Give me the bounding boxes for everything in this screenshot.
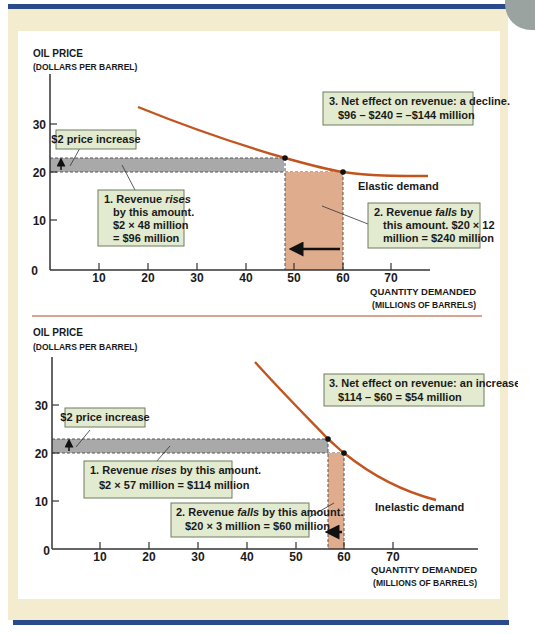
svg-text:$114 – $60 = $54 million: $114 – $60 = $54 million — [338, 391, 462, 403]
svg-text:$96 – $240 = –$144 million: $96 – $240 = –$144 million — [338, 109, 475, 121]
x-tick: 30 — [191, 550, 205, 564]
svg-text:$2 price increase: $2 price increase — [51, 133, 140, 145]
y-tick: 20 — [35, 447, 49, 461]
x-tick: 50 — [289, 550, 303, 564]
point-before — [325, 436, 331, 442]
svg-text:3. Net effect on revenue: an i: 3. Net effect on revenue: an increase. — [329, 377, 518, 389]
svg-text:1. Revenue rises by this amoun: 1. Revenue rises by this amount. — [90, 464, 261, 476]
x-tick: 60 — [337, 550, 351, 564]
x-tick: 30 — [190, 271, 204, 285]
y-axis-title: OIL PRICE — [33, 48, 83, 59]
point-after — [341, 450, 347, 456]
svg-text:$2 × 57 million = $114 million: $2 × 57 million = $114 million — [99, 479, 250, 491]
net-effect-box: 3. Net effect on revenue: a decline. $96… — [323, 92, 510, 125]
svg-text:3. Net effect on revenue: a de: 3. Net effect on revenue: a decline. — [329, 95, 510, 107]
y-axis-subtitle: (DOLLARS PER BARREL) — [33, 342, 138, 352]
y-tick: 0 — [31, 264, 38, 278]
y-axis-subtitle: (DOLLARS PER BARREL) — [33, 62, 138, 72]
revenue-fall-box: 2. Revenue falls by this amount. $20 × 1… — [368, 203, 495, 248]
x-axis-title: QUANTITY DEMANDED — [370, 286, 476, 297]
svg-text:this amount. $20 × 12: this amount. $20 × 12 — [383, 219, 495, 231]
point-before — [282, 155, 288, 161]
x-axis-title: QUANTITY DEMANDED — [371, 564, 477, 575]
revenue-rise-area — [52, 439, 328, 453]
y-tick: 10 — [35, 495, 49, 509]
svg-text:$20 × 3 million = $60 million: $20 × 3 million = $60 million — [185, 520, 330, 532]
curve-label: Elastic demand — [358, 180, 439, 192]
x-tick: 20 — [142, 550, 156, 564]
x-tick: 50 — [287, 271, 301, 285]
curve-label: Inelastic demand — [375, 501, 464, 513]
x-tick: 40 — [240, 550, 254, 564]
x-tick: 70 — [384, 271, 398, 285]
y-tick: 0 — [43, 544, 50, 558]
revenue-rise-area — [50, 158, 284, 172]
svg-text:$2 price increase: $2 price increase — [60, 411, 149, 423]
x-axis-subtitle: (MILLIONS OF BARRELS) — [372, 300, 476, 310]
inelastic-chart: OIL PRICE (DOLLARS PER BARREL) 0 10 20 3… — [33, 327, 518, 588]
svg-text:2. Revenue falls by: 2. Revenue falls by — [374, 206, 474, 218]
price-increase-box: $2 price increase — [51, 130, 140, 149]
y-tick: 30 — [35, 399, 49, 413]
revenue-rise-box: 1. Revenue rises by this amount. $2 × 57… — [84, 461, 261, 498]
y-tick: 30 — [33, 118, 47, 132]
revenue-fall-area — [285, 172, 343, 270]
x-tick: 70 — [386, 550, 400, 564]
revenue-rise-box: 1. Revenue rises by this amount. $2 × 48… — [98, 190, 194, 246]
revenue-fall-area — [328, 453, 344, 549]
net-effect-box: 3. Net effect on revenue: an increase. $… — [324, 374, 518, 406]
x-tick: 40 — [239, 271, 253, 285]
point-after — [340, 169, 346, 175]
y-axis-title: OIL PRICE — [33, 327, 83, 338]
svg-text:= $96 million: = $96 million — [113, 232, 180, 244]
svg-text:1. Revenue rises: 1. Revenue rises — [104, 193, 191, 205]
svg-text:million = $240 million: million = $240 million — [383, 232, 494, 244]
price-increase-box: $2 price increase — [60, 408, 149, 427]
svg-text:by this amount.: by this amount. — [113, 206, 194, 218]
svg-text:2. Revenue falls by this amoun: 2. Revenue falls by this amount. — [176, 506, 344, 518]
x-tick: 10 — [93, 550, 107, 564]
y-tick: 10 — [33, 214, 47, 228]
revenue-fall-box: 2. Revenue falls by this amount. $20 × 3… — [171, 503, 344, 537]
x-tick: 60 — [336, 271, 350, 285]
elastic-chart: OIL PRICE (DOLLARS PER BARREL) 0 10 20 3… — [31, 48, 510, 310]
x-tick: 20 — [141, 271, 155, 285]
x-tick: 10 — [92, 271, 106, 285]
y-tick: 20 — [33, 166, 47, 180]
x-axis-subtitle: (MILLIONS OF BARRELS) — [373, 578, 477, 588]
svg-text:$2 × 48 million: $2 × 48 million — [113, 219, 189, 231]
